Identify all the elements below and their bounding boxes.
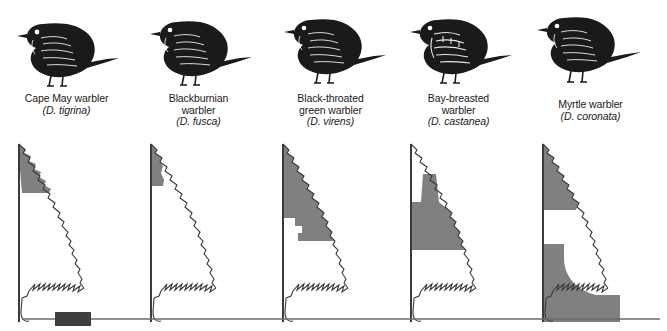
warbler-bird-icon [139,2,259,88]
species-column-cape-may: Cape May warbler (D. tigrina) [0,0,133,300]
warbler-bird-icon [7,2,127,88]
species-label-myrtle: Myrtle warbler (D. coronata) [524,99,657,122]
feeding-zone-shading [412,174,466,250]
feeding-zone-shading [151,144,164,186]
scientific-name: (D. fusca) [132,116,265,128]
bird-illustration-black-throated-green [264,2,397,90]
species-label-black-throated-green: Black-throated green warbler (D. virens) [264,93,397,128]
species-column-myrtle: Myrtle warbler (D. coronata) [524,0,657,300]
bird-illustration-bay-breasted [392,2,525,90]
species-label-cape-may: Cape May warbler (D. tigrina) [0,93,133,116]
bird-illustration-cape-may [0,2,133,90]
species-column-bay-breasted: Bay-breasted warbler (D. castanea) [392,0,525,300]
scientific-name: (D. castanea) [392,116,525,128]
common-name-line1: Cape May warbler [0,93,133,105]
scientific-name: (D. tigrina) [0,105,133,117]
warbler-bird-icon [271,2,391,88]
scale-marker [55,312,91,326]
baseline-group [0,300,667,331]
ground-line [0,300,667,331]
common-name-line1: Bay-breasted [392,93,525,105]
warbler-niche-figure: Cape May warbler (D. tigrina) [0,0,667,331]
bird-illustration-blackburnian [132,2,265,90]
species-column-blackburnian: Blackburnian warbler (D. fusca) [132,0,265,300]
scientific-name: (D. coronata) [524,111,657,123]
common-name-line1: Blackburnian [132,93,265,105]
species-label-blackburnian: Blackburnian warbler (D. fusca) [132,93,265,128]
warbler-bird-icon [528,2,653,88]
species-label-bay-breasted: Bay-breasted warbler (D. castanea) [392,93,525,128]
common-name-line1: Black-throated [264,93,397,105]
bird-illustration-myrtle [524,2,657,90]
species-column-black-throated-green: Black-throated green warbler (D. virens) [264,0,397,300]
common-name-line1: Myrtle warbler [524,99,657,111]
warbler-bird-icon [399,2,519,88]
scientific-name: (D. virens) [264,116,397,128]
